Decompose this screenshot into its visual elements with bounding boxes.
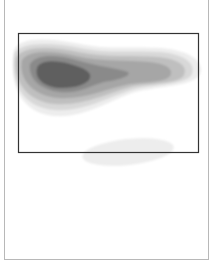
density-contours bbox=[13, 39, 201, 169]
density-plot bbox=[0, 0, 214, 264]
